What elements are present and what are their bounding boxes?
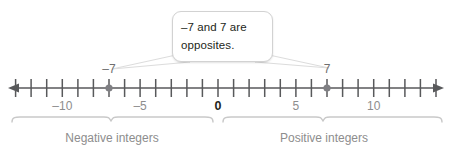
callout-line-1: –7 and 7 are — [181, 18, 271, 36]
brace-negative-integers — [12, 117, 213, 122]
axis-label-minus-10: –10 — [52, 99, 72, 113]
plotted-point-negative-seven — [105, 84, 112, 91]
axis-label-10: 10 — [367, 99, 380, 113]
callout-line-2: opposites. — [181, 36, 271, 54]
point-label-negative-seven: –7 — [102, 62, 115, 76]
right-arrowhead — [433, 83, 444, 92]
axis-label-minus-5: –5 — [133, 99, 146, 113]
point-label-positive-seven: 7 — [324, 62, 331, 76]
brace-positive-integers — [223, 117, 442, 122]
plotted-point-positive-seven — [323, 84, 330, 91]
number-line-axis — [8, 83, 444, 92]
brace-label-positive-integers: Positive integers — [280, 131, 368, 145]
callout-text: –7 and 7 are opposites. — [181, 18, 271, 54]
left-arrowhead — [8, 83, 19, 92]
axis-label-zero: 0 — [215, 99, 222, 113]
number-line-figure: –7 and 7 are opposites. –7 7 –10 –5 0 5 … — [0, 0, 455, 156]
brace-label-negative-integers: Negative integers — [65, 131, 158, 145]
axis-label-5: 5 — [293, 99, 300, 113]
